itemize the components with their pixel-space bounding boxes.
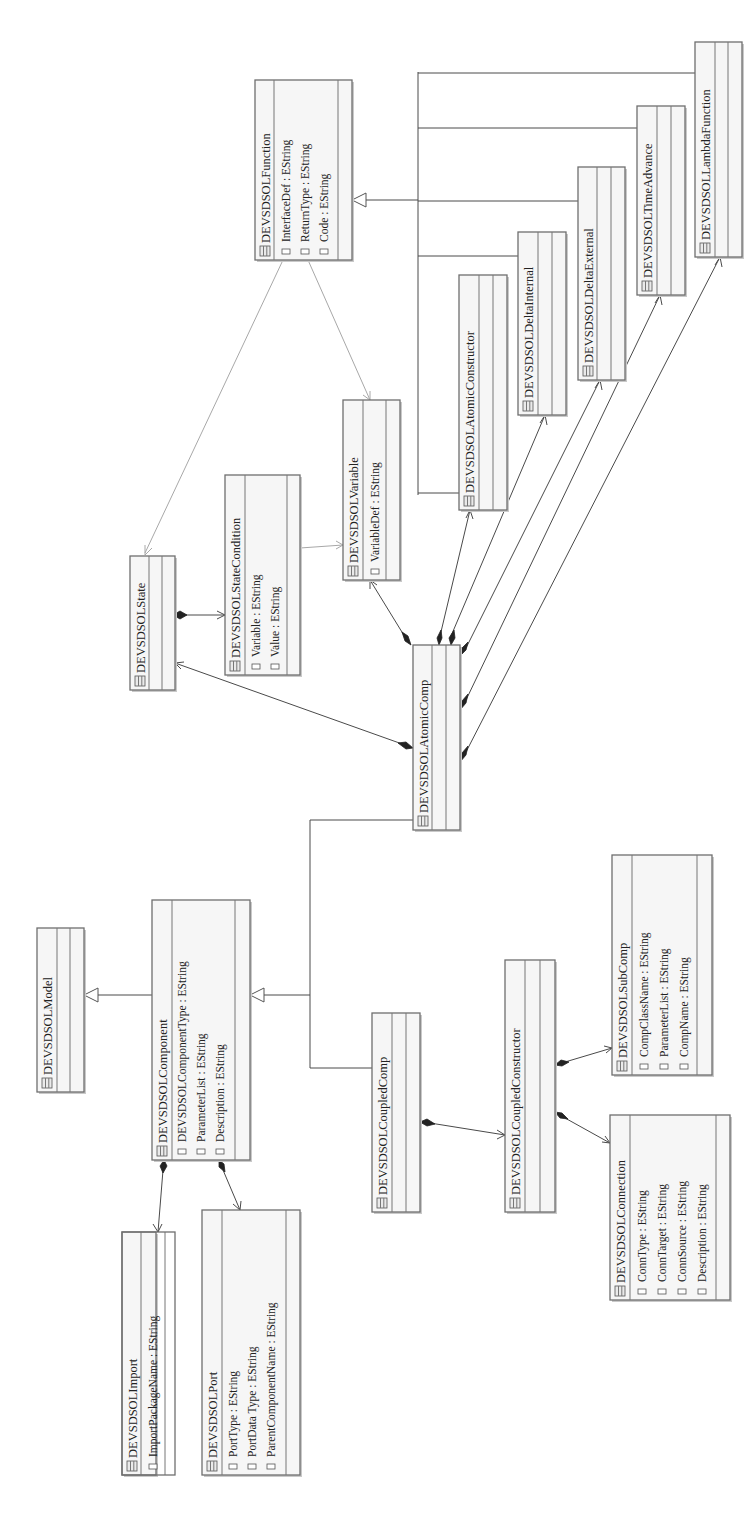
attribute: CompClassName : EString [638,932,651,1057]
attribute-icon [248,1464,256,1469]
class-box-time-advance[interactable]: DEVSDSOLTimeAdvance [637,106,687,297]
attribute: VariableDef : EString [369,462,382,562]
class-name: DEVSDSOLImport [126,1358,140,1458]
class-name: DEVSDSOLVariable [347,457,361,563]
class-box-component[interactable]: DEVSDSOLComponent DEVSDSOLComponentType … [152,900,252,1162]
class-box-delta-external[interactable]: DEVSDSOLDeltaExternal [578,167,627,382]
attribute-icon [658,1289,666,1294]
class-name: DEVSDSOLCoupledConstructor [509,1028,523,1196]
class-box-connection[interactable]: DEVSDSOLConnection ConnType : EString Co… [610,1115,732,1302]
class-name: DEVSDSOLDeltaExternal [582,228,596,363]
attribute: PortData Type : EString [246,1346,259,1457]
class-icon [464,496,474,506]
edge-coupled-constructor [420,1119,505,1139]
attribute: CompName : EString [678,957,691,1057]
class-box-import[interactable]: DEVSDSOLImport ImportPackageName : EStri… [122,1232,165,1477]
attribute-icon [282,249,290,254]
edge-state-statecondition [173,611,225,619]
class-box-sub-comp[interactable]: DEVSDSOLSubComp CompClassName : EString … [612,855,714,1077]
attribute-icon [252,664,260,669]
attribute: InterfaceDef : EString [280,140,293,242]
class-icon [615,1286,625,1296]
class-name: DEVSDSOLStateCondition [229,517,243,658]
class-box-coupled-comp[interactable]: DEVSDSOLCoupledComp [372,1013,422,1214]
class-name: DEVSDSOLFunction [259,133,273,243]
class-name: DEVSDSOLModel [41,977,55,1075]
class-icon [700,243,710,253]
class-icon [418,816,428,826]
edge-atomic-variable [370,580,411,645]
attribute-icon [229,1464,237,1469]
attribute: ConnTarget : EString [656,1184,669,1282]
class-name: DEVSDSOLConnection [614,1159,628,1283]
attribute-icon [680,1064,688,1069]
attribute-icon [178,1149,186,1154]
class-icon [348,566,358,576]
class-name: DEVSDSOLState [134,582,148,673]
attribute-icon [638,1289,646,1294]
class-box-coupled-constructor[interactable]: DEVSDSOLCoupledConstructor [505,960,557,1214]
class-box-port[interactable]: DEVSDSOLPort PortType : EString PortData… [202,1210,302,1477]
class-box-variable[interactable]: DEVSDSOLVariable VariableDef : EString [343,400,402,582]
class-name: DEVSDSOLAtomicConstructor [463,330,477,493]
edge-component-port [219,1160,241,1210]
attribute: Variable : EString [250,574,263,657]
class-box-atomic-comp[interactable]: DEVSDSOLAtomicComp [413,645,462,832]
attribute: ParentComponentName : EString [265,1302,278,1457]
edge-component-import [153,1160,167,1232]
class-icon [207,1461,217,1471]
class-box-state-condition[interactable]: DEVSDSOLStateCondition Variable : EStrin… [225,475,302,677]
class-name: DEVSDSOLDeltaInternal [522,266,536,398]
edge-function-variable [308,260,370,400]
class-icon [260,246,270,256]
class-icon [617,1061,627,1071]
class-box-model[interactable]: DEVSDSOLModel [37,928,86,1094]
attribute: ConnType : EString [636,1190,649,1282]
class-icon [583,366,593,376]
class-icon [157,1146,167,1156]
class-icon [127,1461,137,1471]
class-name: DEVSDSOLLambdaFunction [699,89,713,240]
class-box-function[interactable]: DEVSDSOLFunction InterfaceDef : EString … [255,80,354,262]
class-box-lambda-function[interactable]: DEVSDSOLLambdaFunction [695,42,744,259]
attribute-icon [640,1064,648,1069]
attribute: ImportPackageName : EString [147,1316,160,1457]
attribute: Description : EString [696,1184,709,1282]
edge-statecondition-variable [300,541,343,549]
class-box-state[interactable]: DEVSDSOLState [130,556,177,692]
class-box-atomic-constructor[interactable]: DEVSDSOLAtomicConstructor [459,275,509,512]
attribute: Description : EString [214,1044,227,1142]
edge-constructor-subcomp [555,1046,612,1066]
attribute: ConnSource : EString [676,1181,689,1282]
attribute: Value : EString [269,586,282,657]
class-name: DEVSDSOLCoupledComp [376,1057,390,1195]
attribute: PortType : EString [227,1371,240,1457]
class-box-delta-internal[interactable]: DEVSDSOLDeltaInternal [518,232,568,417]
class-icon [377,1198,387,1208]
uml-class-diagram: DEVSDSOLModel DEVSDSOLComponent DEVSDSOL… [0,0,756,1523]
class-name: DEVSDSOLSubComp [616,943,630,1058]
edge-component-model [84,988,152,1002]
class-name: DEVSDSOLPort [206,1371,220,1458]
attribute-icon [149,1464,157,1469]
attribute-icon [320,249,328,254]
class-name: DEVSDSOLAtomicComp [417,680,431,813]
attribute: ParameterList : EString [195,1033,208,1142]
edge-atomic-atomicconstructor [437,510,473,645]
attribute-icon [371,569,379,574]
class-icon [135,676,145,686]
attribute-icon [216,1149,224,1154]
attribute-icon [271,664,279,669]
attribute: ParameterList : EString [658,948,671,1057]
attribute-icon [678,1289,686,1294]
attribute-icon [301,249,309,254]
attribute-icon [698,1289,706,1294]
attribute: DEVSDSOLComponentType : EString [176,961,189,1142]
class-icon [42,1078,52,1088]
class-icon [230,661,240,671]
class-icon [523,401,533,411]
attribute-icon [660,1064,668,1069]
attribute: ReturnType : EString [299,144,312,242]
attribute-icon [197,1149,205,1154]
edge-constructor-connection [555,1112,610,1143]
